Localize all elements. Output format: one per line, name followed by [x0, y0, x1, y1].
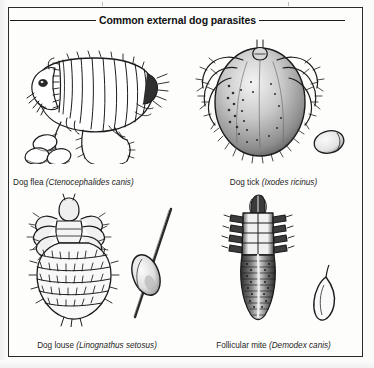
illustration-dog-louse	[9, 193, 185, 327]
tick-egg	[312, 128, 346, 157]
figure-title: Common external dog parasites	[10, 12, 345, 28]
demodex-egg	[314, 265, 335, 320]
illustration-dog-tick	[185, 30, 362, 164]
panel-dog-louse: Dog louse (Linognathus setosus)	[9, 193, 185, 356]
panel-dog-tick: Dog tick (Ixodes ricinus)	[185, 30, 362, 193]
flea-eggs	[24, 133, 73, 164]
caption-scientific-name: (Ixodes ricinus)	[262, 178, 318, 187]
title-rule-left	[10, 20, 96, 21]
illustration-follicular-mite	[185, 193, 362, 327]
figure-panel-grid: Dog flea (Ctenocephalides canis)	[9, 30, 362, 356]
scan-edge-left	[0, 0, 8, 368]
caption-follicular-mite: Follicular mite (Demodex canis)	[185, 341, 362, 350]
caption-scientific-name: (Linognathus setosus)	[76, 341, 157, 350]
caption-common-name: Follicular mite	[216, 341, 267, 350]
figure-title-text: Common external dog parasites	[96, 14, 259, 26]
panel-dog-flea: Dog flea (Ctenocephalides canis)	[9, 30, 185, 193]
louse-nit-on-hair	[127, 209, 171, 317]
illustration-dog-flea	[9, 30, 185, 164]
figure-page: Common external dog parasites	[0, 0, 374, 368]
caption-scientific-name: (Ctenocephalides canis)	[46, 178, 134, 187]
crop-tick-mark	[288, 2, 289, 6]
caption-common-name: Dog flea	[13, 178, 44, 187]
caption-scientific-name: (Demodex canis)	[269, 341, 331, 350]
panel-follicular-mite: Follicular mite (Demodex canis)	[185, 193, 362, 356]
scan-edge-bottom	[0, 360, 374, 368]
caption-common-name: Dog louse	[37, 341, 74, 350]
title-rule-right	[259, 20, 345, 21]
caption-common-name: Dog tick	[230, 178, 260, 187]
crop-tick-mark	[102, 2, 103, 6]
caption-dog-tick: Dog tick (Ixodes ricinus)	[185, 178, 362, 187]
caption-dog-flea: Dog flea (Ctenocephalides canis)	[9, 178, 189, 187]
caption-dog-louse: Dog louse (Linognathus setosus)	[9, 341, 185, 350]
